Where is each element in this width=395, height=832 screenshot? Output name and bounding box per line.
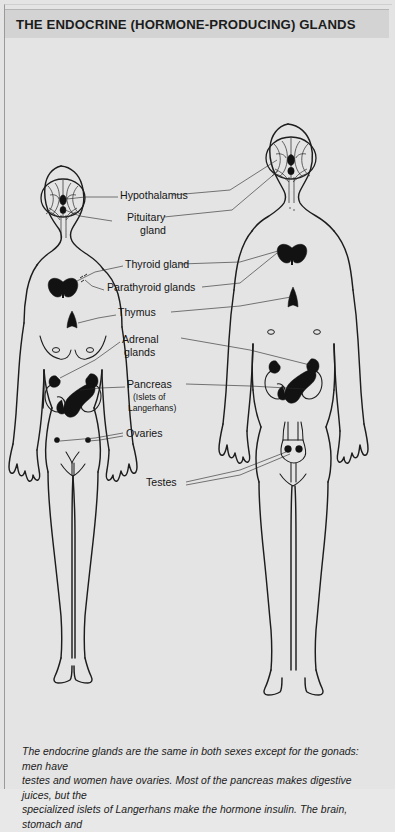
label-testes: Testes [146, 476, 177, 488]
title-bar: THE ENDOCRINE (HORMONE-PRODUCING) GLANDS [5, 9, 389, 38]
female-figure [9, 166, 137, 683]
adrenal-left-male [269, 361, 280, 373]
caption-block: The endocrine glands are the same in bot… [22, 745, 374, 832]
label-pituitary-line2: gland [140, 224, 166, 236]
hypothalamus-organ [60, 195, 67, 205]
ovaries-female [54, 437, 90, 475]
label-adrenal-line2: glands [124, 346, 155, 358]
label-pancreas-sub1: (Islets of [133, 392, 166, 402]
label-ovaries: Ovaries [126, 427, 163, 439]
label-thyroid: Thyroid gland [125, 258, 189, 270]
abdomen-organs-male [265, 359, 322, 403]
label-pancreas-sub2: Langerhans) [128, 403, 176, 413]
label-adrenal-line1: Adrenal [122, 333, 159, 345]
thyroid-male [277, 244, 307, 265]
caption-line-3: specialized islets of Langerhans make th… [22, 803, 374, 832]
hypothalamus-organ-male [287, 155, 294, 166]
endocrine-diagram: Hypothalamus Pituitary gland Thyroid gla… [0, 40, 395, 712]
label-pituitary-line1: Pituitary [127, 211, 166, 223]
pancreas-male [285, 370, 316, 403]
page-title: THE ENDOCRINE (HORMONE-PRODUCING) GLANDS [5, 17, 356, 32]
caption-line-2: testes and women have ovaries. Most of t… [22, 774, 374, 803]
adrenal-left-female [49, 376, 60, 387]
label-pancreas: Pancreas [127, 378, 172, 390]
abdomen-organs-female [45, 374, 101, 417]
pituitary-organ-male [288, 167, 294, 175]
label-hypothalamus: Hypothalamus [120, 189, 188, 201]
label-thymus: Thymus [118, 306, 156, 318]
thymus-female [67, 311, 77, 328]
leader-lines [60, 160, 310, 485]
caption-line-1: The endocrine glands are the same in bot… [22, 745, 374, 774]
testes-male [281, 422, 306, 482]
thyroid-female [48, 278, 78, 298]
label-parathyroid: Parathyroid glands [107, 281, 195, 293]
male-figure [219, 124, 368, 695]
